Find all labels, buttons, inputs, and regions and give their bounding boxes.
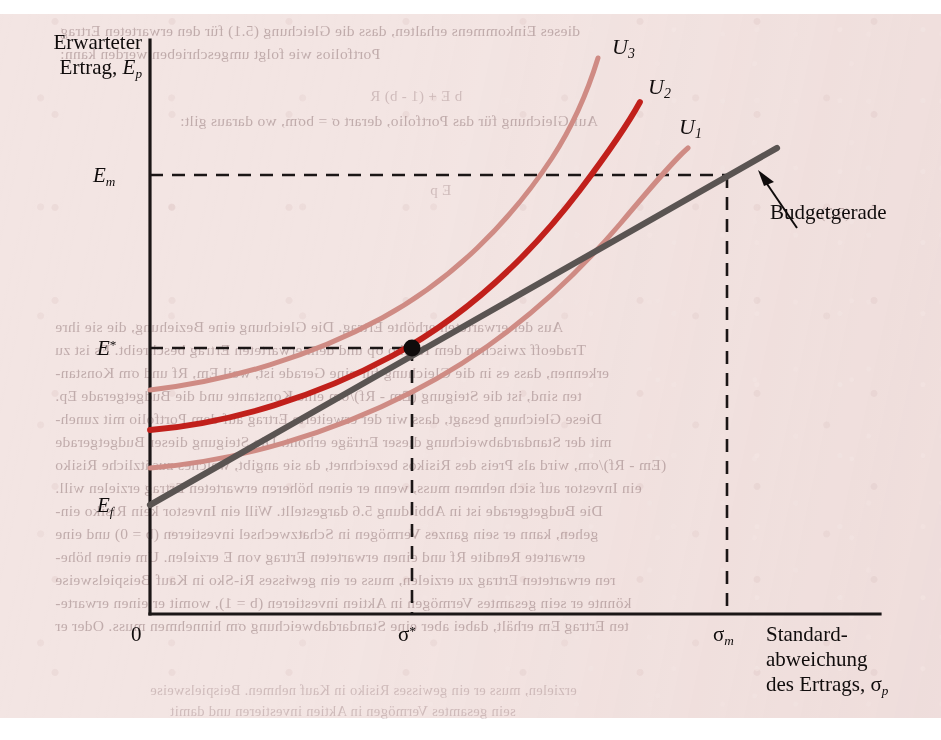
x-axis-title: Standard- abweichung des Ertrags, σp [766,622,941,703]
x-tick-sigma-m-symbol: σ [713,622,724,646]
y-tick-label-Estar: E* [97,336,116,361]
dashed-guides [150,175,727,614]
figure-page: dieses Einkommens erhalten, dass die Gle… [0,0,941,740]
y-axis-title-symbol: E [123,55,136,79]
y-axis-title-line1: Erwarteter [53,30,142,54]
y-axis-title-line2: Ertrag, [60,55,123,79]
curve-label-U3: U3 [612,34,635,62]
y-tick-Estar-symbol: E [97,336,110,360]
curve-label-U1: U1 [679,114,702,142]
x-tick-sigma-star-symbol: σ [398,622,409,646]
origin-label: 0 [131,622,142,647]
curve-label-U3-symbol: U [612,34,628,59]
curve-label-U2-sub: 2 [664,86,671,101]
indifference-curve-U3 [150,58,598,390]
x-tick-label-sigma-m: σm [713,622,734,649]
x-tick-sigma-m-sub: m [724,633,734,648]
budget-line-callout-label: Budgetgerade [770,200,887,225]
y-tick-Em-sub: m [106,174,116,189]
x-tick-label-sigma-star: σ* [398,622,416,647]
x-axis-title-symbol: σ [870,672,881,696]
curve-label-U1-symbol: U [679,114,695,139]
optimal-portfolio-point [404,340,421,357]
x-axis-title-symbol-sub: p [882,683,889,698]
y-tick-Em-symbol: E [93,163,106,187]
y-tick-label-Ef: Ef [97,493,114,520]
curve-label-U2-symbol: U [648,74,664,99]
y-tick-label-Em: Em [93,163,115,190]
y-tick-Estar-sup: * [110,337,117,352]
y-axis-title-symbol-sub: p [135,66,142,81]
x-axis-title-line2: abweichung [766,647,867,671]
y-axis-title: Erwarteter Ertrag, Ep [44,30,142,86]
x-axis-title-line3: des Ertrags, [766,672,870,696]
y-tick-Ef-sub: f [110,504,114,519]
curve-label-U1-sub: 1 [695,126,702,141]
curve-label-U2: U2 [648,74,671,102]
y-tick-Ef-symbol: E [97,493,110,517]
curve-label-U3-sub: 3 [628,46,635,61]
budget-line [150,148,777,505]
x-axis-title-line1: Standard- [766,622,848,646]
x-tick-sigma-star-sup: * [409,623,416,638]
